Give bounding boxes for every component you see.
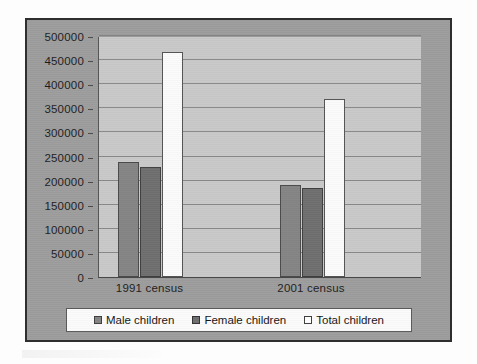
gridline [99, 35, 421, 36]
chart-frame: 0500001000001500002000002500003000003500… [25, 18, 452, 342]
gridline [99, 131, 421, 132]
gridline [99, 59, 421, 60]
y-axis-tick-mark [88, 182, 93, 183]
legend-swatch-male-icon [94, 316, 102, 324]
bar-male-1 [118, 162, 139, 277]
gridline [99, 107, 421, 108]
y-axis-tick-label: 100000 [44, 224, 84, 236]
legend-label: Male children [106, 314, 174, 326]
bar-male-2 [280, 185, 301, 277]
y-axis-tick-label: 500000 [44, 31, 84, 43]
y-axis-tick-label: 200000 [44, 176, 84, 188]
legend-label: Female children [204, 314, 286, 326]
bar-female-2 [302, 188, 323, 277]
y-axis-tick-label: 300000 [44, 127, 84, 139]
x-axis-category-label: 1991 census [116, 282, 183, 294]
gridline [99, 83, 421, 84]
y-axis-tick-mark [88, 133, 93, 134]
y-axis-tick-mark [88, 61, 93, 62]
bar-total-2 [324, 99, 345, 277]
legend-item-female[interactable]: Female children [192, 314, 286, 326]
y-axis-tick-mark [88, 85, 93, 86]
chart-legend: Male childrenFemale childrenTotal childr… [66, 308, 412, 332]
y-axis-tick-mark [88, 230, 93, 231]
y-axis-tick-mark [88, 206, 93, 207]
y-axis-tick-label: 50000 [51, 248, 84, 260]
plot-area [98, 37, 421, 278]
y-axis-tick-label: 450000 [44, 55, 84, 67]
legend-swatch-total-icon [304, 316, 312, 324]
y-axis-tick-label: 250000 [44, 152, 84, 164]
x-axis-category-label: 2001 census [277, 282, 344, 294]
bar-female-1 [140, 167, 161, 277]
y-axis: 0500001000001500002000002500003000003500… [27, 37, 93, 277]
legend-label: Total children [316, 314, 384, 326]
y-axis-tick-mark [88, 37, 93, 38]
bar-total-1 [162, 52, 183, 277]
legend-item-male[interactable]: Male children [94, 314, 174, 326]
y-axis-tick-label: 400000 [44, 79, 84, 91]
legend-swatch-female-icon [192, 316, 200, 324]
y-axis-tick-label: 350000 [44, 103, 84, 115]
y-axis-tick-label: 0 [77, 272, 84, 284]
gridline [99, 156, 421, 157]
y-axis-tick-mark [88, 278, 93, 279]
y-axis-tick-mark [88, 254, 93, 255]
y-axis-tick-label: 150000 [44, 200, 84, 212]
legend-item-total[interactable]: Total children [304, 314, 384, 326]
scan-artifact [22, 350, 162, 358]
y-axis-tick-mark [88, 158, 93, 159]
chart-page: 0500001000001500002000002500003000003500… [0, 0, 477, 364]
y-axis-tick-mark [88, 109, 93, 110]
